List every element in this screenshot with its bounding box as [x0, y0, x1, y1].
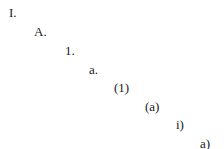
outline-level-3-label: 1.	[65, 44, 75, 57]
outline-level-5-label: (1)	[114, 81, 129, 94]
outline-level-4-label: a.	[89, 63, 98, 76]
outline-level-7-label: i)	[176, 118, 184, 131]
outline-level-6-label: (a)	[145, 100, 159, 113]
outline-level-2-label: A.	[34, 25, 47, 38]
outline-level-1-label: I.	[9, 6, 17, 19]
outline-level-8-label: a)	[200, 137, 210, 149]
